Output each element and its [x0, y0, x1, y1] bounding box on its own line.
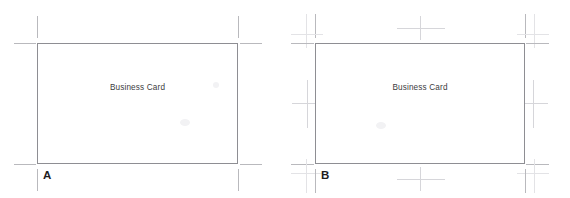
panel-b: Business Card B: [285, 0, 570, 198]
trim-mark-bottom-right-vertical: [238, 169, 239, 191]
bleed-mark-b-top-left-horizontal-outer: [291, 34, 323, 35]
business-card-label-a: Business Card: [38, 83, 237, 92]
registration-mark-right-center-horizontal: [524, 103, 548, 104]
bleed-mark-b-top-right-horizontal-outer: [517, 34, 549, 35]
trim-mark-bottom-left-horizontal: [14, 164, 36, 165]
trim-mark-top-left-horizontal: [14, 43, 36, 44]
registration-mark-right-center-vertical: [533, 80, 534, 128]
crop-mark-comparison-figure: Business Card A: [0, 0, 570, 198]
bleed-mark-b-bottom-left-vertical-outer: [306, 159, 307, 193]
registration-mark-top-center-horizontal: [397, 28, 445, 29]
trim-mark-b-bottom-right-horizontal-inner: [526, 164, 549, 165]
trim-mark-b-top-right-horizontal-inner: [526, 43, 549, 44]
trim-mark-bottom-left-vertical: [37, 169, 38, 191]
panel-letter-b: B: [321, 170, 330, 182]
registration-mark-left-center-horizontal: [292, 103, 316, 104]
trim-mark-top-left-vertical: [37, 16, 38, 38]
trim-mark-b-bottom-left-vertical-inner: [315, 169, 316, 193]
registration-mark-left-center-vertical: [307, 80, 308, 128]
business-card-label-b: Business Card: [316, 83, 524, 92]
business-card-artwork-b: Business Card: [315, 43, 525, 164]
panel-a: Business Card A: [0, 0, 285, 198]
business-card-artwork-a: Business Card: [37, 43, 238, 164]
registration-mark-bottom-center-horizontal: [397, 179, 445, 180]
artwork-smudge-b1: [376, 122, 386, 129]
trim-mark-top-right-vertical: [238, 16, 239, 38]
panel-letter-a: A: [43, 170, 52, 182]
trim-mark-b-bottom-left-horizontal-inner: [291, 164, 314, 165]
trim-mark-b-bottom-right-vertical-inner: [525, 169, 526, 193]
trim-mark-bottom-right-horizontal: [240, 164, 262, 165]
trim-mark-b-top-left-horizontal-inner: [291, 43, 314, 44]
bleed-mark-b-bottom-right-horizontal-outer: [517, 173, 549, 174]
bleed-mark-b-bottom-left-horizontal-outer: [291, 173, 323, 174]
trim-mark-top-right-horizontal: [240, 43, 262, 44]
artwork-smudge-a2: [180, 119, 190, 126]
bleed-mark-b-bottom-right-vertical-outer: [534, 159, 535, 193]
